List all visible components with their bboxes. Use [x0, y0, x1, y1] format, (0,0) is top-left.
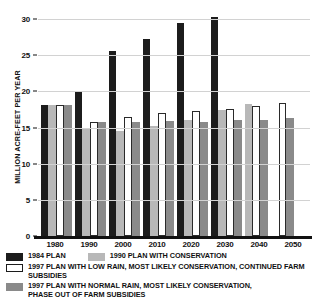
- y-tick-mark: [33, 55, 37, 56]
- gridline: [38, 164, 310, 165]
- bar: [211, 17, 218, 236]
- y-tick-mark: [33, 127, 37, 128]
- bar: [116, 131, 123, 236]
- bar: [286, 118, 293, 236]
- bar: [184, 120, 191, 236]
- gridline: [38, 19, 310, 20]
- legend-row: 1997 PLAN WITH NORMAL RAIN, MOST LIKELY …: [6, 282, 318, 298]
- bar: [82, 128, 89, 236]
- y-axis-title: MILLION ACRE-FEET PER YEAR: [13, 52, 22, 202]
- gridline: [38, 91, 310, 92]
- bar: [166, 121, 173, 236]
- y-tick-mark: [33, 199, 37, 200]
- bar-chart: 051015202530 MILLION ACRE-FEET PER YEAR …: [0, 0, 320, 298]
- bar: [260, 120, 267, 236]
- bar: [192, 111, 199, 236]
- legend-label: 1990 PLAN WITH CONSERVATION: [110, 252, 227, 261]
- y-tick-label: 30: [8, 15, 30, 24]
- legend-swatch: [88, 253, 105, 261]
- legend-swatch: [6, 253, 23, 261]
- bar: [245, 104, 252, 236]
- bar: [132, 122, 139, 236]
- bar: [158, 113, 165, 236]
- y-tick-label: 0: [8, 232, 30, 241]
- y-tick-mark: [33, 236, 37, 237]
- bar: [234, 120, 241, 236]
- bar: [98, 122, 105, 236]
- bar: [41, 105, 48, 236]
- legend-swatch: [6, 264, 23, 272]
- legend-swatch: [6, 283, 23, 291]
- bar: [279, 103, 286, 236]
- bar: [64, 105, 71, 236]
- y-tick-mark: [33, 91, 37, 92]
- legend-row: 1984 PLAN1990 PLAN WITH CONSERVATION: [6, 252, 318, 261]
- x-axis-line: [34, 236, 312, 239]
- legend-label: 1997 PLAN WITH LOW RAIN, MOST LIKELY CON…: [28, 263, 318, 280]
- bar: [252, 106, 259, 236]
- x-tick-label: 2050: [270, 240, 316, 249]
- chart-legend: 1984 PLAN1990 PLAN WITH CONSERVATION1997…: [6, 252, 318, 298]
- bar: [124, 117, 131, 236]
- bar: [218, 110, 225, 236]
- legend-label: 1997 PLAN WITH NORMAL RAIN, MOST LIKELY …: [28, 282, 252, 298]
- y-tick-mark: [33, 163, 37, 164]
- bar: [150, 126, 157, 236]
- y-tick-mark: [33, 19, 37, 20]
- bar: [48, 105, 55, 236]
- bar: [90, 122, 97, 236]
- bar: [200, 122, 207, 236]
- gridline: [38, 200, 310, 201]
- gridline: [38, 55, 310, 56]
- legend-label: 1984 PLAN: [28, 252, 66, 261]
- bar: [143, 39, 150, 236]
- gridline: [38, 128, 310, 129]
- bar: [56, 105, 63, 236]
- bar: [109, 51, 116, 236]
- legend-row: 1997 PLAN WITH LOW RAIN, MOST LIKELY CON…: [6, 263, 318, 280]
